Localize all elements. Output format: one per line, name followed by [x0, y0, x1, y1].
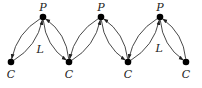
- edge-c3-to-p2: [104, 19, 128, 59]
- edge-c2-to-p2: [72, 20, 101, 60]
- node-label-c4: C: [182, 68, 191, 81]
- node-label-c2: C: [65, 68, 74, 81]
- node-c3: [125, 59, 132, 66]
- node-p2: [98, 14, 105, 21]
- node-p3: [157, 14, 164, 21]
- node-p1: [40, 14, 47, 21]
- node-label-p1: P: [38, 1, 47, 14]
- edge-label: L: [154, 42, 162, 55]
- edge-p3-to-c3: [129, 19, 158, 59]
- node-label-p2: P: [96, 1, 105, 14]
- edge-p2-to-c2: [70, 19, 99, 59]
- node-c4: [183, 59, 190, 66]
- edge-label: L: [35, 43, 43, 56]
- node-label-c1: C: [7, 68, 16, 81]
- node-c1: [8, 59, 15, 66]
- node-label-c3: C: [124, 68, 133, 81]
- node-c2: [66, 59, 73, 66]
- edge-p2-to-c3: [101, 20, 125, 60]
- node-label-p3: P: [155, 1, 164, 14]
- cp-chain-diagram: LLCPCPCPC: [0, 0, 202, 88]
